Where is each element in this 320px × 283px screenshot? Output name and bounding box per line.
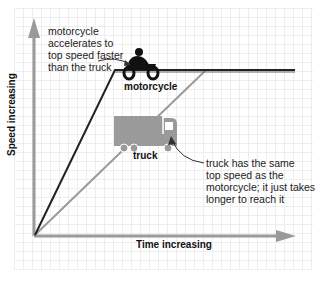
truck-annotation: truck has the same top speed as the moto…: [206, 157, 315, 205]
motorcycle-label: motorcycle: [124, 81, 177, 92]
x-axis-arrow-icon: [276, 230, 296, 242]
x-axis-label: Time increasing: [136, 239, 212, 250]
truck-icon: [114, 116, 177, 152]
truck-label: truck: [133, 150, 157, 161]
motorcycle-annotation: motorcycle accelerates to top speed fast…: [48, 25, 123, 73]
y-axis-label: Speed increasing: [6, 73, 17, 156]
motorcycle-line: [35, 70, 295, 235]
y-axis-arrow-icon: [28, 18, 40, 38]
